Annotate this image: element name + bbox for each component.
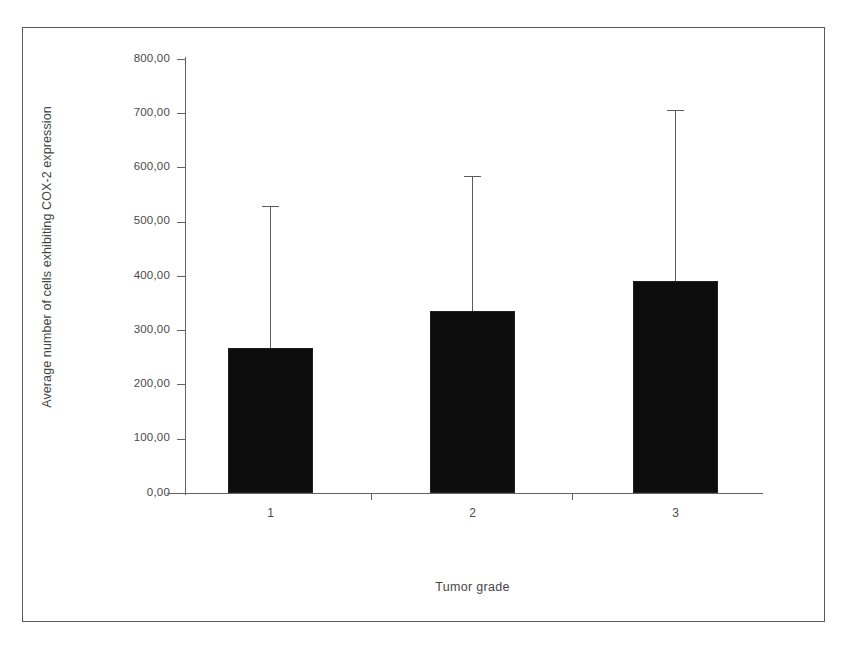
y-tick-label: 800,00 [90, 52, 170, 64]
error-bar-stem-grade-2 [472, 176, 473, 311]
y-tick-label: 0,00 [90, 486, 170, 498]
x-axis-title: Tumor grade [185, 580, 760, 594]
bar-grade-1 [228, 348, 313, 493]
error-bar-cap-grade-1 [262, 206, 279, 207]
error-bar-stem-grade-1 [270, 206, 271, 348]
y-axis-tick [177, 222, 185, 223]
y-axis-tick [177, 439, 185, 440]
figure: Average number of cells exhibiting COX-2… [0, 0, 843, 647]
y-axis-tick [177, 167, 185, 168]
y-tick-label: 200,00 [90, 377, 170, 389]
bar-grade-3 [633, 281, 718, 493]
y-tick-label: 600,00 [90, 160, 170, 172]
x-tick-label-grade-2: 2 [443, 506, 503, 520]
y-tick-label: 300,00 [90, 323, 170, 335]
y-axis-tick-labels: 800,00 700,00 600,00 500,00 400,00 300,0… [88, 0, 170, 647]
x-tick-label-grade-1: 1 [241, 506, 301, 520]
y-axis-tick [177, 113, 185, 114]
error-bar-cap-grade-3 [667, 110, 684, 111]
x-axis-tick [371, 493, 372, 500]
error-bar-stem-grade-3 [675, 110, 676, 281]
y-axis-title: Average number of cells exhibiting COX-2… [40, 57, 54, 457]
y-tick-label: 500,00 [90, 214, 170, 226]
error-bar-cap-grade-2 [464, 176, 481, 177]
y-tick-label: 100,00 [90, 431, 170, 443]
bar-grade-2 [430, 311, 515, 494]
x-axis-tick [572, 493, 573, 500]
y-axis-line [185, 57, 186, 495]
y-axis-tick [177, 59, 185, 60]
y-axis-tick [177, 276, 185, 277]
y-axis-tick [177, 330, 185, 331]
y-tick-label: 700,00 [90, 106, 170, 118]
y-tick-label: 400,00 [90, 269, 170, 281]
x-tick-label-grade-3: 3 [646, 506, 706, 520]
y-axis-tick [177, 384, 185, 385]
